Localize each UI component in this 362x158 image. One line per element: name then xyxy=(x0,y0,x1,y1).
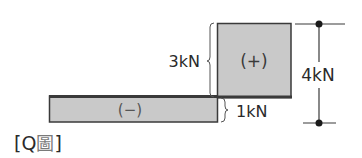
dimension-dot-bottom xyxy=(316,120,323,127)
brace-1kn xyxy=(221,98,228,122)
negative-sign-label: (−) xyxy=(118,101,142,119)
figure-caption: [Q圖] xyxy=(14,131,62,156)
brace-3kn xyxy=(207,23,214,97)
shear-force-diagram: (+) (−) 3kN 1kN 4kN [Q圖] xyxy=(0,0,362,158)
caption-letter: Q xyxy=(21,132,36,154)
positive-sign-label: (+) xyxy=(240,51,268,71)
caption-cjk: 圖 xyxy=(36,133,54,154)
value-label-1kn: 1kN xyxy=(236,102,267,121)
dimension-dot-top xyxy=(316,21,323,28)
value-label-3kn: 3kN xyxy=(169,52,200,71)
value-label-4kn: 4kN xyxy=(301,65,334,85)
caption-bracket-close: ] xyxy=(54,132,61,154)
